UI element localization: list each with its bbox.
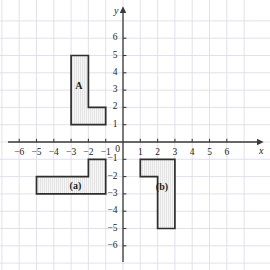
shape-label-A: A [75,81,82,91]
y-tick-label: 6 [113,33,118,43]
y-tick-label: −5 [107,224,117,234]
y-tick-label: 3 [113,85,118,95]
y-tick-label: 1 [113,120,118,130]
x-tick-label: 4 [190,148,195,158]
x-axis-label: x [259,146,263,156]
x-tick-label: −5 [31,148,41,158]
coordinate-plane-figure: x y −6−5−4−3−2−1123456654321−1−2−3−4−5−6… [0,0,270,270]
x-tick-label: 2 [155,148,160,158]
x-tick-label: −4 [49,148,59,158]
x-tick-label: −3 [66,148,76,158]
y-tick-label: 2 [113,102,118,112]
shape-label-a: (a) [70,181,82,191]
y-tick-label: −6 [107,241,117,251]
y-tick-label: −3 [107,189,117,199]
shape-label-b: (b) [156,182,168,192]
x-tick-label: −6 [14,148,24,158]
y-tick-label: −4 [107,206,117,216]
label-layer: x y −6−5−4−3−2−1123456654321−1−2−3−4−5−6… [0,0,270,270]
x-tick-label: 5 [207,148,212,158]
y-axis-label: y [114,6,118,16]
x-tick-label: 3 [173,148,178,158]
x-tick-label: 6 [224,148,229,158]
y-tick-label: −2 [107,172,117,182]
origin-label: 0 [115,145,120,155]
y-tick-label: 5 [113,51,118,61]
y-tick-label: 4 [113,68,118,78]
y-tick-label: −1 [107,154,117,164]
x-tick-label: 1 [138,148,143,158]
x-tick-label: −2 [83,148,93,158]
